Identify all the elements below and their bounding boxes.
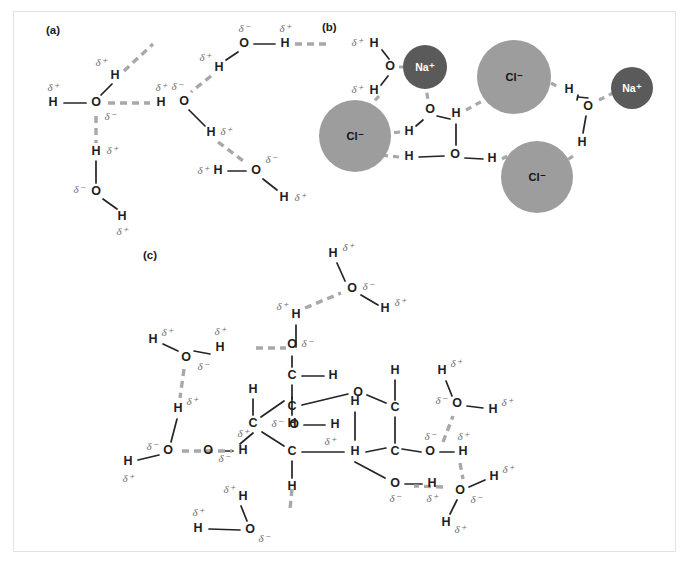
bond-b-o-h-2 — [437, 116, 450, 119]
delta-wrl-o: δ⁻ — [470, 493, 482, 505]
bond-c4-hcenter — [366, 448, 386, 452]
bond-wt-o-h2 — [361, 295, 378, 305]
delta-wml-h2: δ⁺ — [186, 395, 198, 407]
delta-h-bottom-left: δ⁺ — [197, 164, 209, 176]
ion-label-chloride-bottom: Cl⁻ — [529, 171, 546, 183]
delta-o-below: δ⁻ — [73, 183, 85, 195]
atom-b-h-lower-right: H — [487, 151, 496, 165]
atom-ring-c5: C — [287, 444, 296, 458]
delta-oh-right-h: δ⁺ — [457, 430, 469, 442]
delta-wru-o: δ⁻ — [435, 394, 447, 406]
atom-h-mid-right: H — [214, 60, 223, 74]
atom-oh-leftring-h: H — [238, 443, 247, 457]
atom-b-o-upper-mid: O — [425, 102, 435, 116]
panel-a-label: (a) — [46, 24, 60, 36]
panel-c-group: (c) — [122, 241, 514, 544]
atom-wbl-h2: H — [238, 489, 247, 503]
atom-ring-h-center: H — [350, 444, 359, 458]
panel-a-group: (a) O δ⁻ H δ⁺ H δ⁺ H δ⁺ H δ⁺ O δ⁻ H — [46, 22, 330, 237]
delta-wt-o: δ⁻ — [362, 280, 374, 292]
hbond-a-diag2 — [218, 142, 246, 163]
bond-b-o-h-5 — [465, 158, 483, 159]
atom-ring-c1: C — [287, 368, 296, 382]
atom-oh-leftring-o: O — [203, 443, 213, 457]
atom-wbl-o: O — [245, 522, 255, 536]
hbond-c-leftvert — [180, 369, 184, 398]
atom-ring-c2: C — [287, 399, 296, 413]
atom-oh-br-o: O — [390, 476, 400, 490]
panel-c-label: (c) — [143, 249, 157, 261]
bond-wru-o-h1 — [446, 381, 452, 396]
ion-label-sodium-top: Na⁺ — [415, 61, 434, 73]
delta-oh-right-o: δ⁻ — [424, 430, 436, 442]
atom-b-h-lower-left: H — [404, 149, 413, 163]
atom-o-below: O — [91, 184, 101, 198]
delta-h-left: δ⁺ — [47, 81, 59, 93]
delta-b-h-upper-left: δ⁺ — [351, 36, 363, 48]
atom-ring-c6: C — [248, 416, 257, 430]
atom-h-bottom-left: H — [213, 163, 222, 177]
bond-wrl-o-h1 — [469, 480, 485, 487]
atom-b-h-right-bottom: H — [577, 135, 586, 149]
bond-o-h-lower — [103, 199, 117, 209]
bond-wru-o-h2 — [467, 406, 483, 408]
atom-wul-o: O — [181, 350, 191, 364]
delta-h-mid-right: δ⁺ — [199, 51, 211, 63]
delta-h-bottom-right: δ⁺ — [294, 191, 306, 203]
bond-wml-o-h2 — [171, 419, 177, 442]
atom-o-mid-right: O — [179, 94, 189, 108]
delta-oh-inner-o: δ⁻ — [271, 417, 283, 429]
atom-oh-br-h: H — [427, 476, 436, 490]
delta-wbl-h1: δ⁺ — [192, 506, 204, 518]
delta-oh-br-o: δ⁻ — [389, 492, 401, 504]
delta-wru-h2: δ⁺ — [501, 396, 513, 408]
atom-b-h-upper-left: H — [369, 36, 378, 50]
bond-wul-o-h1 — [163, 344, 178, 351]
atom-wrl-o: O — [455, 483, 465, 497]
atom-ring-c6-h: H — [248, 382, 257, 396]
delta-h-below: δ⁺ — [106, 144, 118, 156]
atom-h-right: H — [156, 95, 165, 109]
delta-oh-br-h: δ⁺ — [426, 492, 438, 504]
bond-b-o-h-4 — [419, 156, 444, 157]
atom-wt-o: O — [347, 281, 357, 295]
atom-wru-o: O — [452, 396, 462, 410]
atom-ring-c3-h: H — [390, 363, 399, 377]
atom-h-lower-right: H — [206, 125, 215, 139]
delta-wru-h1: δ⁺ — [450, 357, 462, 369]
delta-wrl-h1: δ⁺ — [502, 463, 514, 475]
delta-oh-leftring-o: δ⁻ — [218, 452, 230, 464]
atom-b-h-second-left: H — [369, 83, 378, 97]
bond-wt-o-h1 — [337, 263, 345, 281]
atom-h-left: H — [48, 95, 57, 109]
atom-oh-top-o: O — [287, 337, 297, 351]
ion-label-chloride-left: Cl⁻ — [347, 130, 364, 142]
atom-ring-h-center-up: H — [350, 394, 359, 408]
atom-wru-h1: H — [437, 363, 446, 377]
bond-omr-hlr — [189, 110, 205, 126]
atom-b-h-mid-left: H — [404, 124, 413, 138]
bond-b-o-h-7 — [583, 116, 586, 133]
delta-wrl-h2: δ⁺ — [454, 523, 466, 535]
bond-obr-hbr — [263, 179, 277, 190]
atom-wul-h1: H — [148, 332, 157, 346]
bond-c6-c2 — [261, 401, 284, 417]
atom-b-o-upper-left: O — [385, 59, 395, 73]
atom-b-h-right-top: H — [564, 82, 573, 96]
molecular-diagram: (a) O δ⁻ H δ⁺ H δ⁺ H δ⁺ H δ⁺ O δ⁻ H — [0, 0, 691, 568]
bond-wml-o-h1 — [138, 455, 159, 460]
delta-oh-leftring-h: δ⁺ — [237, 427, 249, 439]
atom-oh-right-h: H — [458, 444, 467, 458]
ionbond-h-cl-tr — [466, 99, 486, 110]
figure-root: (a) O δ⁻ H δ⁺ H δ⁺ H δ⁺ H δ⁺ O δ⁻ H — [0, 0, 691, 568]
delta-h-up: δ⁺ — [95, 56, 107, 68]
bond-c5-c6 — [262, 432, 284, 446]
atom-oh-inner-h: H — [330, 417, 339, 431]
atom-ring-c5-h: H — [287, 479, 296, 493]
ionbond-o-na-right — [599, 93, 613, 100]
delta-wul-o: δ⁻ — [197, 360, 209, 372]
delta-oh-inner-h: δ⁺ — [324, 435, 336, 447]
delta-wml-o: δ⁻ — [146, 440, 158, 452]
atom-oh-top-h: H — [291, 307, 300, 321]
ionbond-cl-h-right — [551, 83, 560, 88]
